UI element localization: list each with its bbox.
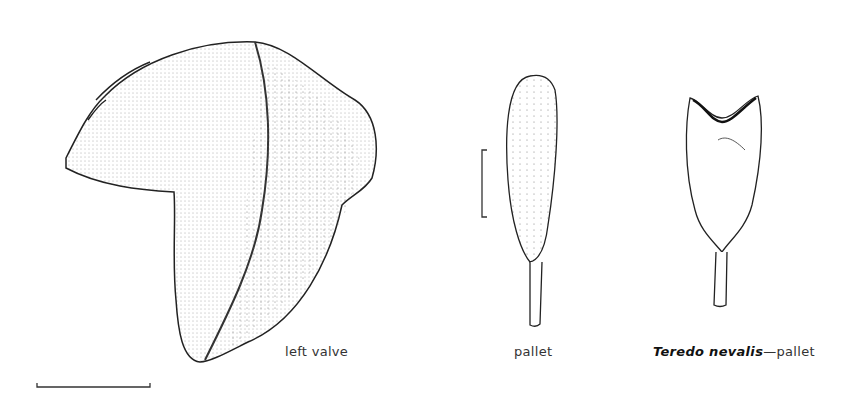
left-valve-caption: left valve — [285, 344, 348, 359]
pallet-drawing — [507, 75, 557, 326]
left-valve-scale-bar — [37, 383, 150, 387]
species-name: Teredo nevalis — [653, 344, 763, 359]
left-valve-drawing — [66, 42, 376, 362]
teredo-pallet-label: pallet — [776, 344, 814, 359]
teredo-pallet-drawing — [686, 96, 761, 307]
caption-separator: — — [763, 344, 776, 359]
teredo-pallet-caption: Teredo nevalis—pallet — [653, 344, 815, 359]
pallet-scale-bar — [482, 150, 487, 217]
pallet-caption: pallet — [514, 344, 552, 359]
